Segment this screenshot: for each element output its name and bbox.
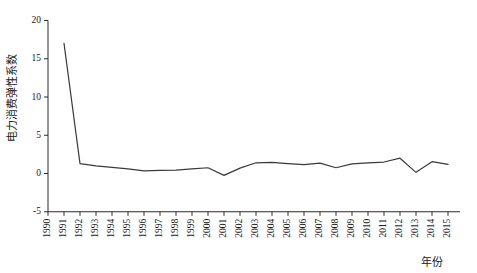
y-tick-label: 15 [32,53,42,63]
x-tick-label: 1992 [74,219,84,238]
y-tick-label: 0 [36,168,41,178]
line-chart-svg: -505101520 19901991199219931994199519961… [0,0,477,273]
x-tick-label: 1993 [90,219,100,238]
y-axis [44,21,48,212]
x-tick-label: 2002 [234,219,244,238]
x-tick-labels: 1990199119921993199419951996199719981999… [42,219,452,238]
x-tick-label: 1998 [170,219,180,238]
series-polyline [64,43,448,175]
x-tick-label: 2003 [250,219,260,238]
x-tick-label: 2011 [378,219,388,238]
x-tick-label: 1999 [186,219,196,238]
x-tick-label: 2014 [426,219,436,238]
y-tick-label: -5 [33,206,41,216]
x-tick-label: 2005 [282,219,292,238]
x-tick-label: 1994 [106,219,116,238]
x-tick-label: 2006 [298,219,308,238]
data-series-line [64,43,448,175]
x-tick-label: 2000 [202,219,212,238]
x-tick-label: 1990 [42,219,52,238]
x-axis [48,212,460,216]
x-tick-label: 2010 [362,219,372,238]
y-tick-labels: -505101520 [32,15,42,216]
y-tick-label: 10 [32,92,42,102]
x-axis-title: 年份 [421,255,443,268]
x-tick-label: 2008 [330,219,340,238]
x-tick-label: 2013 [410,219,420,238]
x-tick-label: 2015 [442,219,452,238]
chart-figure: -505101520 19901991199219931994199519961… [0,0,477,273]
x-tick-label: 2007 [314,219,324,238]
y-tick-label: 20 [32,15,42,25]
x-tick-label: 2001 [218,219,228,238]
y-axis-title: 电力消费弹性系数 [5,54,18,142]
x-tick-label: 1995 [122,219,132,238]
x-tick-label: 1996 [138,219,148,238]
x-tick-label: 1997 [154,219,164,238]
y-tick-label: 5 [36,130,41,140]
x-tick-label: 1991 [58,219,68,238]
x-tick-label: 2012 [394,219,404,238]
x-tick-label: 2004 [266,219,276,238]
x-tick-label: 2009 [346,219,356,238]
